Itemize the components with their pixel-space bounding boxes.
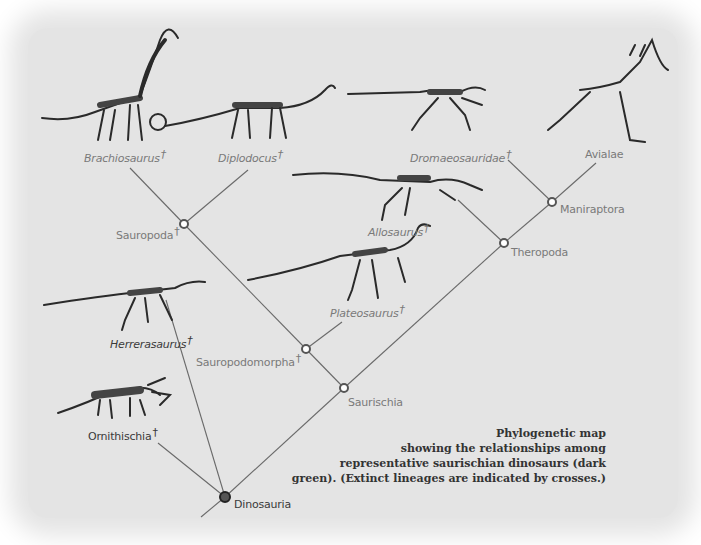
extinct-dagger-icon: † <box>400 303 405 316</box>
node-label-theropoda: Theropoda <box>511 246 568 259</box>
taxon-label-diplodocus: Diplodocus† <box>218 148 283 165</box>
diplodocus-skeleton <box>150 85 335 138</box>
extinct-dagger-icon: † <box>506 148 511 161</box>
extinct-dagger-icon: † <box>187 334 192 347</box>
extinct-dagger-icon: † <box>153 426 158 439</box>
node-label-saurischia: Saurischia <box>348 396 403 409</box>
dromaeosauridae-skeleton <box>348 87 485 130</box>
taxon-label-herrerasaurus: Herrerasaurus† <box>110 334 193 351</box>
taxon-label-plateosaurus: Plateosaurus† <box>330 303 405 320</box>
taxon-label-allosaurus: Allosaurus† <box>368 222 429 239</box>
taxon-label-ornithischia: Ornithischia† <box>88 426 158 443</box>
node-label-sauropodomorpha: Sauropodomorpha† <box>196 352 301 369</box>
avialae-skeleton <box>548 40 668 142</box>
extinct-dagger-icon: † <box>424 222 429 235</box>
taxon-label-avialae: Avialae <box>585 148 623 161</box>
extinct-dagger-icon: † <box>174 225 179 238</box>
node-label-sauropoda: Sauropoda† <box>116 225 180 242</box>
node-label-maniraptora: Maniraptora <box>560 203 625 216</box>
herrerasaurus-skeleton <box>44 282 205 330</box>
taxon-label-brachiosaurus: Brachiosaurus† <box>84 148 166 165</box>
extinct-dagger-icon: † <box>278 148 283 161</box>
node-label-dinosauria: Dinosauria <box>234 498 291 511</box>
extinct-dagger-icon: † <box>161 148 166 161</box>
taxon-label-dromaeosauridae: Dromaeosauridae† <box>410 148 512 165</box>
figure-caption: Phylogenetic map showing the relationshi… <box>286 426 606 486</box>
allosaurus-skeleton <box>293 173 482 220</box>
brachiosaurus-skeleton <box>42 29 178 140</box>
extinct-dagger-icon: † <box>296 352 301 365</box>
ornithischia-skeleton <box>58 378 170 418</box>
